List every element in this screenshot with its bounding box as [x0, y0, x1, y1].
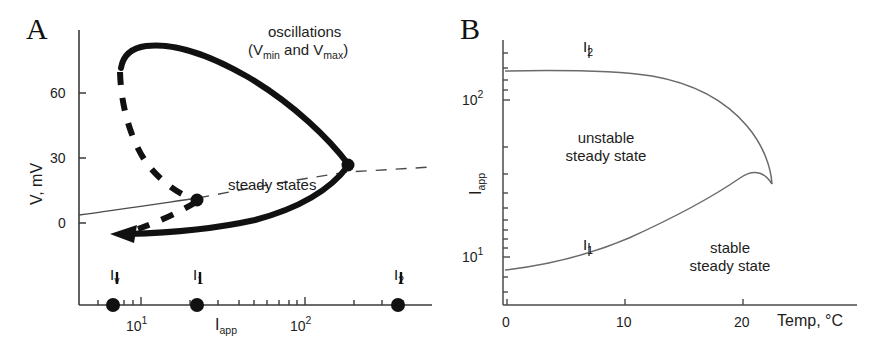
panel-a-stable-steady-state-curve	[79, 198, 198, 215]
panel-a-marker-label-i1-sub: 1	[197, 274, 203, 286]
panel-a-marker-label-iv-sub: v	[114, 274, 119, 286]
panel-b-y-axis-title-main: I	[467, 191, 484, 195]
panel-b-unstable-region-label-line2: steady state	[541, 148, 671, 165]
panel-a-ytick-60: 60	[50, 85, 66, 101]
panel-b-i2-boundary-curve	[505, 71, 772, 184]
panel-b-ytick-10-2-mantissa: 10	[462, 92, 478, 108]
panel-b-curve-label-i1-sub: 1	[587, 244, 593, 256]
panel-a-hopf-point-i2	[342, 159, 355, 172]
panel-a-plot	[0, 0, 437, 359]
panel-a-axis-marker-iv	[106, 298, 120, 312]
panel-a-x-axis-title: Iapp	[215, 316, 237, 334]
panel-a-oscillations-label-line1: oscillations	[268, 24, 341, 41]
panel-b-ytick-10-1-mantissa: 10	[462, 249, 478, 265]
panel-a-xtick-10-1-exponent: 1	[142, 314, 148, 326]
panel-b-stable-region-label-line1: stable	[665, 240, 795, 257]
panel-a-ytick-0: 0	[58, 215, 66, 231]
panel-b-x-ticks	[507, 299, 743, 305]
panel-a-oscillations-label-line2: (Vmin and Vmax)	[248, 42, 348, 59]
panel-a-ytick-30: 30	[50, 150, 66, 166]
panel-a-hopf-point-i1	[191, 194, 204, 207]
panel-b-stable-region-label-line2: steady state	[665, 258, 795, 275]
panel-a-xtick-10-2-exponent: 2	[306, 314, 312, 326]
panel-b-xtick-20: 20	[734, 314, 750, 330]
osc-sub-max: max	[323, 49, 343, 61]
panel-b-ytick-10-1: 101	[462, 249, 483, 265]
panel-b-ytick-10-1-exponent: 1	[478, 245, 484, 257]
panel-a-marker-stems	[117, 272, 401, 284]
panel-b-y-ticks	[503, 53, 510, 292]
panel-a-x-axis-title-sub: app	[219, 324, 237, 336]
panel-a-marker-label-i1: I1	[193, 266, 203, 283]
panel-b-curve-label-i2-sub: 2	[587, 46, 593, 58]
osc-sub-min: min	[263, 49, 280, 61]
panel-b-ytick-10-2-exponent: 2	[478, 88, 484, 100]
panel-a-xtick-10-1: 101	[126, 318, 147, 334]
panel-b-curve-label-i2: I2	[583, 38, 593, 55]
panel-a-xtick-10-1-mantissa: 10	[126, 318, 142, 334]
panel-b-xtick-10: 10	[616, 314, 632, 330]
panel-b-unstable-region-label-line1: unstable	[541, 130, 671, 147]
panel-a-axis-marker-i2	[391, 298, 405, 312]
panel-a-x-ticks	[98, 297, 403, 305]
panel-a-steady-states-label: steady states	[228, 177, 316, 194]
panel-b-ytick-10-2: 102	[462, 92, 483, 108]
panel-b-x-axis-title: Temp, °C	[777, 312, 843, 330]
panel-a-xtick-10-2-mantissa: 10	[290, 318, 306, 334]
panel-a-y-ticks	[79, 93, 86, 223]
panel-b-xtick-0: 0	[502, 314, 510, 330]
figure-root: A	[0, 0, 873, 359]
panel-a-marker-label-i2-sub: 2	[398, 274, 404, 286]
panel-a-arrowhead	[110, 225, 137, 243]
osc-paren-close: )	[343, 41, 348, 58]
panel-a-axis-marker-i1	[190, 298, 204, 312]
panel-b-curve-label-i1: I1	[583, 236, 593, 253]
panel-a-xtick-10-2: 102	[290, 318, 311, 334]
panel-b: B	[437, 0, 873, 359]
panel-a-y-axis-title: V, mV	[28, 163, 46, 205]
panel-a: A	[0, 0, 437, 359]
panel-a-vmax-branch	[121, 45, 348, 164]
osc-paren-open: (V	[248, 41, 263, 58]
panel-a-marker-label-iv: Iv	[110, 266, 119, 283]
panel-b-y-axis-title: Iapp	[467, 173, 485, 195]
panel-a-marker-label-i2: I2	[394, 266, 404, 283]
panel-b-y-axis-title-sub: app	[475, 173, 487, 191]
panel-b-plot	[437, 0, 873, 359]
panel-a-unstable-cycle-upper	[120, 72, 196, 200]
osc-and: and V	[280, 41, 323, 58]
